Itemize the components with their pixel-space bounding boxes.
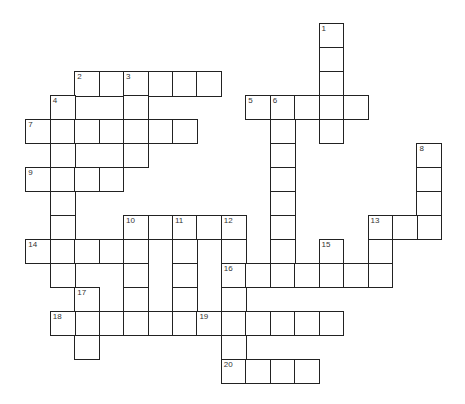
crossword-cell[interactable] [294, 263, 320, 288]
crossword-cell[interactable] [50, 119, 76, 144]
crossword-cell[interactable] [74, 167, 100, 192]
crossword-cell[interactable] [123, 263, 149, 288]
crossword-cell[interactable]: 14 [25, 239, 51, 264]
crossword-cell[interactable]: 7 [25, 119, 51, 144]
crossword-cell[interactable] [368, 263, 394, 288]
crossword-cell[interactable] [123, 119, 149, 144]
crossword-cell[interactable] [123, 95, 149, 120]
crossword-cell[interactable]: 20 [221, 359, 247, 384]
crossword-cell[interactable] [343, 263, 369, 288]
crossword-cell[interactable] [74, 335, 100, 360]
crossword-cell[interactable] [123, 311, 149, 336]
crossword-cell[interactable] [99, 71, 125, 96]
crossword-cell[interactable]: 13 [368, 215, 394, 240]
crossword-cell[interactable] [172, 311, 198, 336]
crossword-cell[interactable] [270, 119, 296, 144]
crossword-cell[interactable] [172, 71, 198, 96]
crossword-cell[interactable]: 17 [74, 287, 100, 312]
crossword-cell[interactable]: 6 [270, 95, 296, 120]
crossword-cell[interactable] [50, 191, 76, 216]
crossword-cell[interactable] [123, 239, 149, 264]
clue-number: 12 [224, 217, 233, 225]
crossword-cell[interactable] [99, 167, 125, 192]
clue-number: 10 [126, 217, 135, 225]
crossword-cell[interactable] [416, 215, 442, 240]
crossword-cell[interactable] [99, 239, 125, 264]
crossword-cell[interactable] [319, 119, 345, 144]
crossword-cell[interactable] [392, 215, 418, 240]
crossword-cell[interactable] [270, 215, 296, 240]
clue-number: 16 [224, 265, 233, 273]
crossword-cell[interactable]: 19 [196, 311, 222, 336]
crossword-cell[interactable] [148, 311, 174, 336]
crossword-cell[interactable]: 8 [416, 143, 442, 168]
crossword-cell[interactable] [50, 263, 76, 288]
crossword-cell[interactable] [319, 47, 345, 72]
crossword-cell[interactable]: 15 [319, 239, 345, 264]
crossword-cell[interactable] [172, 119, 198, 144]
crossword-cell[interactable] [50, 167, 76, 192]
crossword-cell[interactable] [368, 239, 394, 264]
crossword-cell[interactable] [270, 239, 296, 264]
clue-number: 19 [199, 313, 208, 321]
crossword-cell[interactable] [123, 287, 149, 312]
crossword-cell[interactable]: 16 [221, 263, 247, 288]
crossword-cell[interactable] [50, 215, 76, 240]
clue-number: 4 [53, 97, 57, 105]
crossword-cell[interactable] [343, 95, 369, 120]
crossword-cell[interactable]: 9 [25, 167, 51, 192]
crossword-cell[interactable]: 11 [172, 215, 198, 240]
crossword-cell[interactable] [221, 239, 247, 264]
clue-number: 20 [224, 361, 233, 369]
crossword-cell[interactable]: 4 [50, 95, 76, 120]
crossword-cell[interactable] [74, 311, 100, 336]
crossword-cell[interactable] [221, 287, 247, 312]
crossword-cell[interactable] [416, 191, 442, 216]
crossword-cell[interactable] [148, 119, 174, 144]
crossword-cell[interactable] [74, 119, 100, 144]
crossword-cell[interactable] [294, 359, 320, 384]
crossword-cell[interactable] [270, 359, 296, 384]
crossword-cell[interactable] [319, 311, 345, 336]
crossword-cell[interactable] [99, 119, 125, 144]
clue-number: 15 [322, 241, 331, 249]
crossword-cell[interactable] [270, 143, 296, 168]
crossword-cell[interactable] [245, 359, 271, 384]
crossword-cell[interactable]: 18 [50, 311, 76, 336]
crossword-cell[interactable]: 12 [221, 215, 247, 240]
clue-number: 14 [28, 241, 37, 249]
crossword-cell[interactable] [221, 311, 247, 336]
crossword-cell[interactable] [245, 311, 271, 336]
crossword-cell[interactable] [148, 71, 174, 96]
crossword-cell[interactable] [294, 311, 320, 336]
crossword-cell[interactable] [416, 167, 442, 192]
clue-number: 8 [419, 145, 423, 153]
crossword-cell[interactable] [74, 239, 100, 264]
crossword-cell[interactable] [172, 263, 198, 288]
crossword-cell[interactable]: 5 [245, 95, 271, 120]
crossword-cell[interactable]: 2 [74, 71, 100, 96]
crossword-cell[interactable] [99, 311, 125, 336]
crossword-cell[interactable] [319, 95, 345, 120]
crossword-cell[interactable] [294, 95, 320, 120]
crossword-cell[interactable] [270, 167, 296, 192]
crossword-cell[interactable] [50, 143, 76, 168]
crossword-cell[interactable]: 10 [123, 215, 149, 240]
crossword-cell[interactable] [148, 215, 174, 240]
crossword-cell[interactable] [319, 71, 345, 96]
crossword-cell[interactable] [270, 191, 296, 216]
crossword-cell[interactable]: 1 [319, 23, 345, 48]
crossword-cell[interactable] [196, 71, 222, 96]
clue-number: 5 [248, 97, 252, 105]
crossword-cell[interactable]: 3 [123, 71, 149, 96]
crossword-cell[interactable] [123, 143, 149, 168]
crossword-cell[interactable] [319, 263, 345, 288]
crossword-cell[interactable] [172, 287, 198, 312]
crossword-cell[interactable] [221, 335, 247, 360]
crossword-cell[interactable] [270, 311, 296, 336]
crossword-cell[interactable] [172, 239, 198, 264]
crossword-cell[interactable] [270, 263, 296, 288]
crossword-cell[interactable] [196, 215, 222, 240]
crossword-cell[interactable] [245, 263, 271, 288]
crossword-cell[interactable] [50, 239, 76, 264]
